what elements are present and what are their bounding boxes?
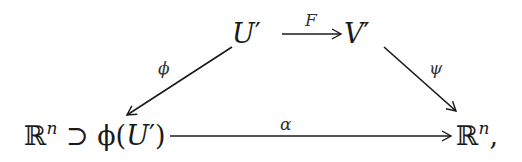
label-F: F [305, 12, 317, 29]
node-V-prime-mark: ′ [364, 18, 370, 49]
node-U-prime: U′ [232, 20, 261, 47]
exponent-n: n [46, 118, 57, 138]
label-phi: ϕ [158, 60, 170, 77]
phi-func: ϕ( [97, 120, 126, 151]
close-paren: ) [155, 120, 166, 151]
node-U-symbol: U [232, 18, 255, 49]
label-alpha: α [280, 116, 291, 133]
reals-symbol: ℝ [456, 120, 478, 151]
supset-symbol: ⊃ [57, 120, 97, 151]
node-Rn-supset-phi-U: ℝn ⊃ ϕ(U′) [24, 122, 166, 149]
exponent-n: n [478, 118, 489, 138]
node-U-prime-mark: ′ [255, 18, 261, 49]
U-arg: U [126, 120, 149, 151]
node-V-symbol: V [344, 18, 364, 49]
node-Rn: ℝn, [456, 122, 498, 149]
node-V-prime: V′ [344, 20, 370, 47]
arrow-psi [384, 47, 456, 111]
label-psi: ψ [429, 60, 442, 77]
reals-symbol: ℝ [24, 120, 46, 151]
arrow-phi [127, 47, 232, 115]
trailing-comma: , [489, 120, 498, 151]
